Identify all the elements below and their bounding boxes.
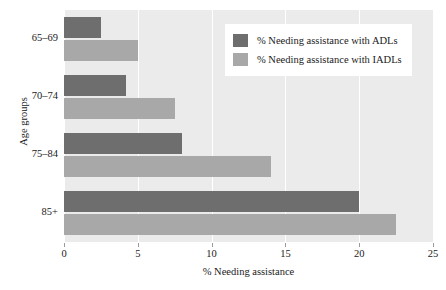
legend-label-adl: % Needing assistance with ADLs (257, 35, 398, 46)
x-axis-tick (212, 243, 213, 247)
x-axis-tick-label: 0 (44, 248, 84, 259)
x-axis-tick (138, 243, 139, 247)
x-axis-tick (64, 243, 65, 247)
y-axis-tick-label: 85+ (0, 206, 58, 217)
bar[interactable] (64, 17, 101, 38)
x-axis-tick (433, 243, 434, 247)
x-axis-tick-label: 10 (192, 248, 232, 259)
x-axis-tick-label: 20 (339, 248, 379, 259)
legend-item[interactable]: % Needing assistance with IADLs (233, 50, 402, 69)
bar-group (64, 75, 433, 119)
bar-group (64, 133, 433, 177)
bar-group (64, 191, 433, 235)
bar[interactable] (64, 133, 182, 154)
x-axis-tick-label: 15 (265, 248, 305, 259)
legend-item[interactable]: % Needing assistance with ADLs (233, 31, 402, 50)
y-axis-title: Age groups (18, 52, 29, 192)
chart-legend: % Needing assistance with ADLs % Needing… (225, 24, 412, 76)
bar[interactable] (64, 40, 138, 61)
bar-chart: Age groups 65–6970–7475–8485+ 0510152025… (0, 0, 446, 290)
legend-swatch-iadl (233, 53, 248, 66)
bar[interactable] (64, 214, 396, 235)
x-axis-tick-label: 5 (118, 248, 158, 259)
y-axis-tick-label: 65–69 (0, 32, 58, 43)
bar[interactable] (64, 191, 359, 212)
y-axis-tick-label: 75–84 (0, 148, 58, 159)
y-axis-tick-label: 70–74 (0, 90, 58, 101)
x-axis-tick (285, 243, 286, 247)
x-axis-tick (359, 243, 360, 247)
legend-swatch-adl (233, 34, 248, 47)
bar[interactable] (64, 75, 126, 96)
x-axis-tick-label: 25 (413, 248, 446, 259)
gridline (433, 10, 434, 242)
x-axis-title: % Needing assistance (64, 266, 433, 277)
bar[interactable] (64, 156, 271, 177)
bar[interactable] (64, 98, 175, 119)
legend-label-iadl: % Needing assistance with IADLs (257, 54, 402, 65)
